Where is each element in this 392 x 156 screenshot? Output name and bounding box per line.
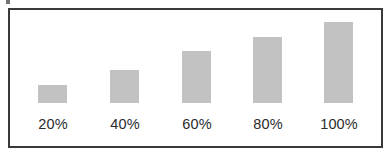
bar-chart-screenshot: 20% 40% 60% 80% 100% bbox=[0, 0, 392, 156]
bar-60 bbox=[182, 51, 211, 103]
bar-label-20: 20% bbox=[23, 116, 83, 132]
bar-label-100: 100% bbox=[309, 116, 369, 132]
scan-artifact-speck bbox=[6, 0, 10, 4]
plot-area: 20% 40% 60% 80% 100% bbox=[10, 10, 381, 146]
bar-100 bbox=[324, 22, 353, 103]
bar-80 bbox=[253, 37, 282, 103]
bar-20 bbox=[38, 85, 67, 103]
bar-label-60: 60% bbox=[167, 116, 227, 132]
bar-label-80: 80% bbox=[238, 116, 298, 132]
bar-label-40: 40% bbox=[95, 116, 155, 132]
bar-40 bbox=[110, 70, 139, 103]
chart-frame-border: 20% 40% 60% 80% 100% bbox=[8, 8, 383, 148]
